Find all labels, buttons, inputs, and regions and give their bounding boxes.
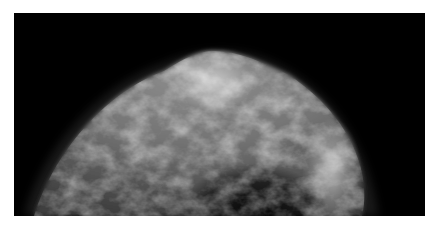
tissue-render: [14, 13, 425, 216]
radiograph-image: [14, 13, 425, 216]
